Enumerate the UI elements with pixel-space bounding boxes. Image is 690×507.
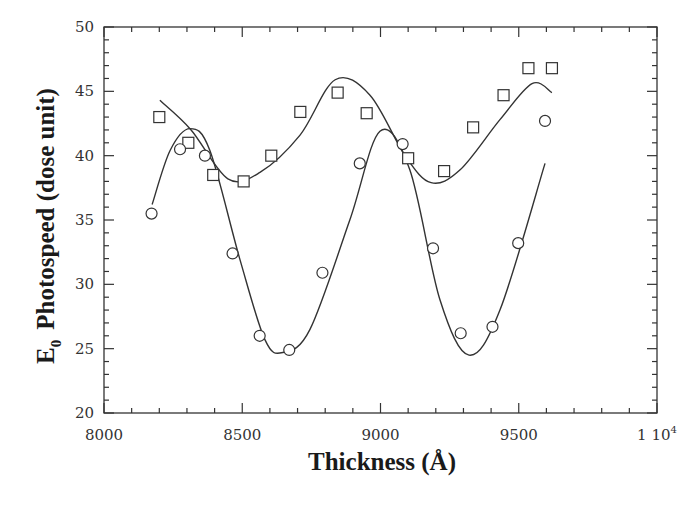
y-tick-label: 20	[75, 404, 94, 422]
x-tick-label: 9000	[361, 426, 399, 444]
circle-marker	[175, 144, 186, 155]
circle-marker	[354, 158, 365, 169]
y-axis-subscript: 0	[48, 340, 64, 348]
square-marker	[295, 106, 306, 117]
y-tick-label: 50	[75, 18, 94, 36]
circle-marker	[487, 321, 498, 332]
axis-ticks	[104, 27, 657, 413]
square-marker	[332, 87, 343, 98]
y-axis-symbol: E	[32, 347, 59, 364]
square-marker	[266, 150, 277, 161]
circle-marker	[455, 328, 466, 339]
x-tick-label: 9500	[500, 426, 538, 444]
x-tick-label: 8500	[223, 426, 261, 444]
y-axis-title: E0Photospeed (dose unit)	[32, 88, 64, 364]
axis-tick-labels: 80008500900095001 10420253035404550	[75, 18, 677, 444]
circle-marker	[540, 115, 551, 126]
square-marker	[238, 176, 249, 187]
y-tick-label: 30	[75, 275, 94, 293]
square-marker	[208, 169, 219, 180]
y-tick-label: 45	[75, 82, 94, 100]
square-marker	[498, 90, 509, 101]
square-marker	[468, 122, 479, 133]
fit-curves	[152, 78, 552, 356]
y-tick-label: 25	[75, 340, 94, 358]
svg-text:E0Photospeed (dose unit): E0Photospeed (dose unit)	[32, 88, 64, 364]
square-marker	[361, 108, 372, 119]
square-marker	[546, 63, 557, 74]
circle-marker	[428, 243, 439, 254]
x-axis-title: Thickness (Å)	[308, 448, 456, 476]
data-markers	[146, 63, 557, 356]
square-marker	[439, 166, 450, 177]
square-marker	[403, 153, 414, 164]
circle-marker	[397, 139, 408, 150]
circle-marker	[284, 344, 295, 355]
y-axis-label-rest: Photospeed (dose unit)	[32, 88, 60, 330]
y-tick-label: 35	[75, 211, 94, 229]
square-marker	[154, 112, 165, 123]
circles-fit-curve	[152, 129, 545, 356]
circle-marker	[317, 267, 328, 278]
square-marker	[523, 63, 534, 74]
x-tick-label: 1 104	[637, 424, 677, 444]
circle-marker	[254, 330, 265, 341]
plot-frame	[104, 27, 657, 413]
circle-marker	[199, 150, 210, 161]
photospeed-chart: 80008500900095001 10420253035404550 Thic…	[0, 0, 690, 507]
circle-marker	[513, 238, 524, 249]
circle-marker	[227, 248, 238, 259]
x-tick-label: 8000	[85, 426, 123, 444]
y-tick-label: 40	[75, 147, 94, 165]
circle-marker	[146, 208, 157, 219]
